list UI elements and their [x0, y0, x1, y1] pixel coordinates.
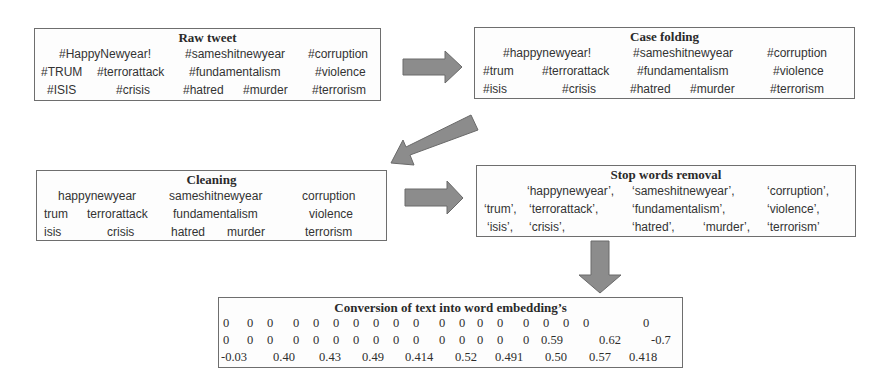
word: crisis — [107, 225, 134, 239]
word: #terrorattack — [542, 64, 609, 78]
embedding-value: 0.43 — [319, 350, 341, 365]
word: violence — [309, 207, 353, 221]
raw-tweet-title: Raw tweet — [35, 30, 380, 46]
word: #TRUM — [41, 65, 82, 79]
arrow-down-icon — [579, 241, 621, 293]
embedding-value: 0.59 — [541, 333, 563, 348]
word: #happynewyear! — [503, 46, 591, 60]
arrow-diagonal-down-left-icon — [391, 115, 478, 165]
word: ‘hatred’, — [632, 220, 675, 234]
embedding-value: 0 — [563, 316, 569, 331]
case-folding-title: Case folding — [475, 29, 854, 45]
word: #terrorism — [770, 82, 824, 96]
embedding-value: 0 — [267, 316, 273, 331]
embedding-value: 0.52 — [455, 350, 477, 365]
word: corruption — [302, 189, 355, 203]
embedding-value: 0 — [477, 333, 483, 348]
embedding-value: 0 — [413, 316, 419, 331]
word: #terrorism — [312, 83, 366, 97]
word: #terrorattack — [97, 65, 164, 79]
embedding-value: 0.491 — [495, 350, 523, 365]
word: #violence — [315, 65, 366, 79]
embedding-value: 0 — [583, 316, 589, 331]
word: #trum — [483, 64, 514, 78]
word: #murder — [243, 83, 288, 97]
embedding-value: 0 — [313, 333, 319, 348]
embedding-value: 0.62 — [599, 333, 621, 348]
embedding-value: 0 — [477, 316, 483, 331]
embedding-value: 0 — [543, 316, 549, 331]
cleaning-title: Cleaning — [37, 172, 386, 188]
cleaning-box: Cleaning happynewyear sameshitnewyear co… — [36, 170, 387, 241]
embedding-box: Conversion of text into word embedding’s… — [218, 297, 683, 368]
word: ‘murder’, — [703, 220, 750, 234]
word: ‘corruption’, — [767, 184, 829, 198]
embedding-value: 0 — [247, 333, 253, 348]
word: ‘violence’, — [767, 202, 820, 216]
word: #sameshitnewyear — [633, 46, 733, 60]
arrow-right-icon — [403, 51, 462, 83]
embedding-value: 0.414 — [405, 350, 433, 365]
embedding-value: 0 — [223, 316, 229, 331]
word: #isis — [483, 82, 507, 96]
embedding-value: 0 — [393, 333, 399, 348]
stop-words-title: Stop words removal — [477, 167, 855, 183]
embedding-value: 0 — [223, 333, 229, 348]
word: #fundamentalism — [189, 65, 280, 79]
embedding-value: 0 — [497, 316, 503, 331]
embedding-value: 0 — [313, 316, 319, 331]
word: #fundamentalism — [637, 64, 728, 78]
word: ‘fundamentalism’, — [632, 202, 725, 216]
embedding-value: 0.40 — [273, 350, 295, 365]
embedding-value: 0 — [373, 333, 379, 348]
word: terrorism — [305, 225, 352, 239]
embedding-value: 0 — [373, 316, 379, 331]
embedding-value: 0 — [293, 316, 299, 331]
embedding-value: 0 — [333, 333, 339, 348]
word: fundamentalism — [173, 207, 258, 221]
embedding-value: 0 — [393, 316, 399, 331]
embedding-value: 0 — [459, 333, 465, 348]
word: murder — [227, 225, 265, 239]
embedding-value: 0 — [247, 316, 253, 331]
case-folding-box: Case folding #happynewyear! #sameshitnew… — [474, 27, 855, 99]
embedding-value: 0 — [353, 316, 359, 331]
word: terrorattack — [87, 207, 148, 221]
word: #violence — [773, 64, 824, 78]
word: #murder — [690, 82, 735, 96]
word: isis — [44, 225, 61, 239]
embedding-value: 0 — [333, 316, 339, 331]
word: ‘crisis’, — [529, 220, 565, 234]
word: #hatred — [630, 82, 671, 96]
raw-tweet-box: Raw tweet #HappyNewyear! #sameshitnewyea… — [34, 28, 381, 101]
embedding-value: -0.03 — [221, 350, 247, 365]
stop-words-box: Stop words removal ‘happynewyear’, ‘same… — [476, 165, 856, 237]
word: ‘isis’, — [487, 220, 513, 234]
word: ‘sameshitnewyear’, — [632, 184, 735, 198]
embedding-value: 0 — [353, 333, 359, 348]
word: happynewyear — [58, 189, 136, 203]
embedding-value: -0.7 — [651, 333, 671, 348]
embedding-value: 0.418 — [629, 350, 657, 365]
embedding-title: Conversion of text into word embedding’s — [219, 300, 682, 316]
word: #crisis — [116, 83, 150, 97]
embedding-value: 0 — [413, 333, 419, 348]
word: #corruption — [767, 46, 827, 60]
word: ‘terrorism’ — [767, 220, 820, 234]
word: trum — [44, 207, 68, 221]
arrow-right-icon — [405, 181, 463, 214]
embedding-value: 0 — [439, 316, 445, 331]
word: ‘trum’, — [484, 202, 517, 216]
embedding-value: 0 — [439, 333, 445, 348]
embedding-value: 0 — [523, 316, 529, 331]
embedding-value: 0.49 — [362, 350, 384, 365]
embedding-value: 0 — [267, 333, 273, 348]
word: ‘happynewyear’, — [527, 184, 614, 198]
word: sameshitnewyear — [169, 189, 262, 203]
embedding-value: 0 — [293, 333, 299, 348]
embedding-value: 0 — [523, 333, 529, 348]
embedding-value: 0 — [497, 333, 503, 348]
word: #HappyNewyear! — [59, 47, 151, 61]
embedding-value: 0 — [643, 316, 649, 331]
word: hatred — [171, 225, 205, 239]
